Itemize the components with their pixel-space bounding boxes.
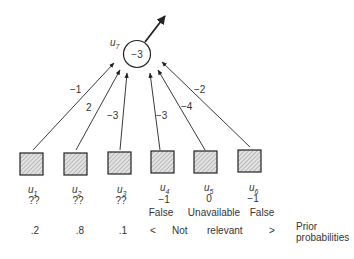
input-unit-u3: u3 ?? .1	[108, 152, 131, 236]
edge-u3-u7	[120, 73, 127, 150]
relevant-text: relevant	[207, 225, 243, 236]
prior-probabilities-label: Prior probabilities	[296, 221, 349, 243]
input-units: u1 ?? .2 u2 ?? .8 u3 ?? .1 u4 −1 False u…	[20, 150, 275, 236]
svg-text:probabilities: probabilities	[296, 232, 349, 243]
weight-u1: −1	[70, 84, 82, 95]
unit-value: −1	[247, 193, 259, 204]
output-unit-u7: −3 u7	[110, 16, 165, 68]
unit-value: ??	[115, 195, 127, 206]
unit-box	[108, 152, 131, 174]
svg-text:Prior: Prior	[296, 221, 318, 232]
weights: −1 2 −3 −3 −4 −2	[70, 84, 206, 121]
output-arrow	[145, 16, 165, 42]
weight-u3: −3	[107, 110, 119, 121]
node-bias: −3	[131, 49, 143, 60]
unit-state: False	[149, 207, 174, 218]
edge-u6-u7	[162, 62, 250, 147]
input-unit-u6: u6 −1 False	[238, 150, 275, 218]
unit-value: ??	[28, 195, 40, 206]
unit-box	[238, 150, 261, 172]
weight-u6: −2	[194, 84, 206, 95]
neural-network-diagram: −3 u7 −1 2 −3 −3 −4 −2 u1 ?? .2 u2 ?? .8	[0, 0, 354, 259]
input-unit-u5: u5 0 Unavailable	[188, 151, 241, 218]
unit-box	[151, 151, 174, 173]
unit-box	[194, 151, 217, 173]
weight-u5: −4	[181, 101, 193, 112]
unit-prior: .2	[31, 225, 40, 236]
connections	[33, 62, 250, 150]
unit-state: Unavailable	[188, 207, 241, 218]
unit-box	[20, 153, 43, 175]
weight-u4: −3	[156, 110, 168, 121]
input-unit-u2: u2 ?? .8	[64, 153, 87, 236]
node-label: u7	[110, 37, 121, 50]
input-unit-u4: u4 −1 False	[149, 151, 174, 218]
unit-prior: .8	[76, 225, 85, 236]
not-relevant-annotation: < Not relevant >	[150, 225, 275, 236]
unit-value: −1	[158, 194, 170, 205]
unit-value: ??	[72, 195, 84, 206]
edge-u1-u7	[33, 63, 114, 150]
weight-u2: 2	[86, 102, 92, 113]
bracket-open: <	[150, 225, 156, 236]
bracket-close: >	[269, 225, 275, 236]
unit-box	[64, 153, 87, 175]
unit-state: False	[250, 207, 275, 218]
not-text: Not	[172, 225, 188, 236]
input-unit-u1: u1 ?? .2	[20, 153, 43, 236]
unit-value: 0	[206, 193, 212, 204]
unit-prior: .1	[119, 225, 128, 236]
